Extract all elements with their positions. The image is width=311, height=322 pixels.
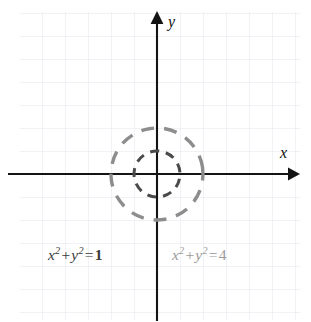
inner-eq-value: 1	[95, 246, 103, 263]
outer-eq-exp2: 2	[202, 245, 207, 256]
x-axis-label: x	[280, 144, 287, 162]
outer-eq-operator: +	[184, 246, 195, 263]
outer-circle-equation-label: x2+y2=4	[172, 246, 227, 264]
y-axis-arrowhead	[151, 11, 164, 24]
x-axis	[8, 168, 300, 181]
inner-eq-operator: +	[60, 246, 71, 263]
x-axis-arrowhead	[288, 168, 300, 181]
outer-eq-equals: =	[208, 246, 219, 263]
y-axis	[151, 11, 164, 321]
outer-eq-value: 4	[219, 246, 227, 263]
inner-circle-equation-label: x2+y2=1	[48, 246, 103, 264]
inner-eq-exp2: 2	[78, 245, 83, 256]
inner-eq-equals: =	[84, 246, 95, 263]
graph-figure: y x x2+y2=1 x2+y2=4	[0, 0, 311, 322]
y-axis-label: y	[168, 13, 175, 31]
plot-layer	[0, 0, 311, 322]
